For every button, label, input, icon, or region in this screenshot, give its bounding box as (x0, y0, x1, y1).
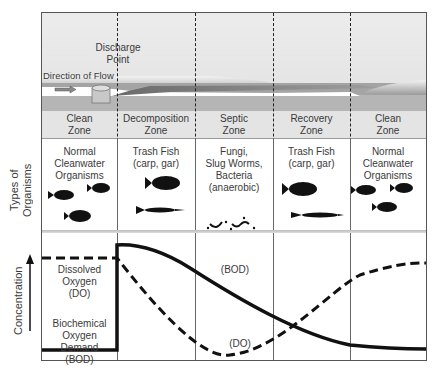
do-curve-label: (DO) (220, 338, 260, 350)
bod-label: BiochemicalOxygen Demand(BOD) (42, 318, 117, 366)
arrow-up-icon (26, 254, 34, 264)
concentration-chart (0, 0, 436, 371)
do-label: Dissolved Oxygen(DO) (42, 264, 117, 300)
bod-curve-label: (BOD) (215, 264, 255, 276)
